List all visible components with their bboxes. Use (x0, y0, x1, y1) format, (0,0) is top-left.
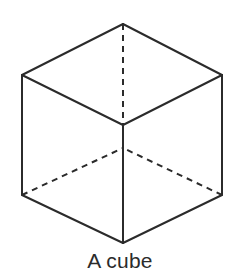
figure-caption: A cube (0, 248, 240, 274)
edge-outline-top-right (123, 24, 222, 75)
edge-hidden-left (22, 148, 123, 195)
edge-outline-bottom-left (22, 195, 123, 243)
edge-top-face-left (22, 75, 123, 125)
cube-diagram (0, 0, 240, 277)
edge-outline-top-left (22, 24, 123, 75)
edge-outline-bottom-right (123, 195, 222, 243)
edge-top-face-right (123, 75, 222, 125)
edge-hidden-right (123, 148, 222, 195)
figure-container: A cube (0, 0, 240, 277)
